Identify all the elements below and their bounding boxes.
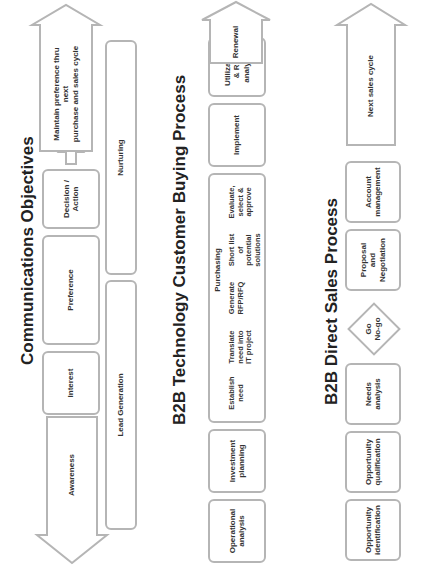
purchasing-step-evaluate: Evaluate, select & approve <box>228 179 254 225</box>
account-management-box: Account management <box>345 161 401 223</box>
purchasing-step-establish: Establish need <box>228 371 245 415</box>
proposal-negotiation-box: Proposal and Negotiation <box>345 229 401 291</box>
opportunity-identification-box: Opportunity identification <box>345 499 401 561</box>
implement-box: Implement <box>208 103 266 167</box>
lead-generation-bar: Lead Generation <box>105 280 137 530</box>
preference-box: Preference <box>42 235 100 345</box>
buying-title: B2B Technology Customer Buying Process <box>170 75 190 425</box>
purchasing-step-rfp: Generate RFP/RFQ <box>228 276 245 320</box>
communications-title: Communications Objectives <box>18 136 38 365</box>
investment-planning-box: Investment planning <box>208 429 266 493</box>
purchasing-step-translate: Translate need into IT project <box>228 325 254 369</box>
maintain-label: Maintain preference thru next purchase a… <box>42 39 90 149</box>
go-nogo-label: Go No-go <box>364 306 382 352</box>
interest-box: Interest <box>42 351 100 415</box>
purchasing-label: Purchasing <box>213 235 222 305</box>
diagram-canvas: Communications Objectives Awareness Inte… <box>0 0 424 565</box>
nurturing-bar: Nurturing <box>105 40 137 275</box>
sales-title: B2B Direct Sales Process <box>322 198 342 405</box>
decision-action-box: Decision / Action <box>42 169 100 229</box>
needs-analysis-box: Needs analysis <box>345 363 401 425</box>
opportunity-qualification-box: Opportunity qualification <box>345 431 401 493</box>
purchasing-step-shortlist: Short list of potential solutions <box>228 227 263 273</box>
awareness-label: Awareness <box>47 420 97 530</box>
renewal-label: Renewal <box>212 19 260 65</box>
next-sales-cycle-label: Next sales cycle <box>347 27 395 145</box>
operational-analysis-box: Operational analysis <box>208 499 266 563</box>
